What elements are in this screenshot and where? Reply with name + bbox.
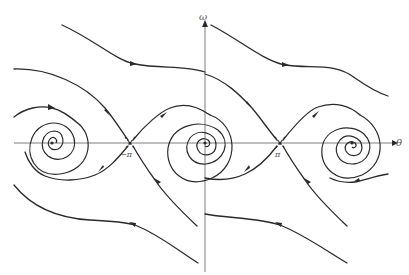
arrow-bottom-right-icon: [275, 222, 282, 227]
separatrix-left-incoming: [14, 69, 128, 140]
arrow-separatrix-right-in-icon: [246, 101, 252, 108]
trajectory-left-mid: [14, 107, 80, 125]
omega-axis-label: ω: [199, 12, 207, 22]
separatrix-left-lower-in: [133, 146, 197, 226]
separatrix-right-lower-out: [205, 146, 277, 179]
arrow-bottom-left-icon: [129, 222, 136, 227]
arrow-top-right-icon: [282, 62, 289, 67]
neg-pi-tick-label: −π: [120, 151, 132, 159]
separatrix-left-outgoing: [133, 106, 210, 140]
separatrix-right-outgoing: [283, 104, 360, 140]
upper-separatrices: [14, 69, 360, 140]
lower-rotating-trajectories: [14, 185, 347, 263]
separatrix-left-lower-out: [25, 146, 128, 180]
arrow-top-left-icon: [130, 61, 137, 66]
trajectory-top-right: [211, 25, 388, 96]
spiral-right: [322, 115, 380, 178]
focus-left-point: [50, 141, 53, 144]
saddle-right-point: [279, 142, 282, 145]
upper-rotating-trajectories: [62, 25, 388, 96]
spiral-left: [30, 123, 88, 174]
trajectory-bottom-right: [205, 214, 347, 263]
separatrix-right-incoming: [205, 74, 277, 140]
arrow-separatrix-right-out-icon: [312, 111, 319, 118]
focus-right-point: [350, 141, 353, 144]
pi-tick-label: π: [275, 151, 280, 159]
trajectory-bottom-left: [14, 185, 198, 263]
arrow-separatrix-right-lower-icon: [244, 165, 250, 172]
spiral-center: [168, 115, 232, 182]
saddle-left-point: [129, 142, 132, 145]
separatrix-right-lower-in: [283, 146, 347, 226]
focus-center-point: [203, 141, 206, 144]
phase-portrait-diagram: [0, 0, 409, 275]
theta-axis-label: θ: [396, 138, 402, 148]
